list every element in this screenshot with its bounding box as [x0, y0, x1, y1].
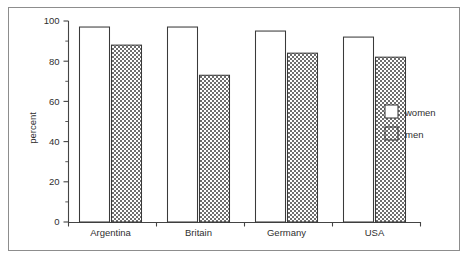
- legend-swatch-women: [385, 105, 398, 118]
- legend-label-men: men: [405, 129, 423, 140]
- bar-women-usa: [344, 37, 374, 222]
- y-tick-label: 40: [49, 136, 60, 147]
- y-tick-label: 0: [54, 216, 59, 227]
- y-tick-label: 20: [49, 176, 60, 187]
- legend-label-women: women: [404, 107, 436, 118]
- x-axis-category-labels: ArgentinaBritainGermanyUSA: [90, 227, 385, 238]
- bar-men-argentina: [112, 45, 142, 222]
- x-category-label: Argentina: [90, 227, 131, 238]
- bar-men-germany: [288, 53, 318, 222]
- y-tick-label: 60: [49, 96, 60, 107]
- x-category-label: USA: [365, 227, 385, 238]
- y-tick-label: 100: [44, 15, 60, 26]
- bar-women-germany: [256, 31, 286, 222]
- y-axis-title: percent: [27, 112, 38, 144]
- bar-men-britain: [200, 75, 230, 222]
- y-axis-tick-labels: 020406080100: [44, 15, 60, 227]
- y-axis-ticks: [64, 21, 69, 222]
- bars-group: [80, 27, 406, 222]
- bar-women-argentina: [80, 27, 110, 222]
- bar-chart: 020406080100 ArgentinaBritainGermanyUSA …: [0, 0, 470, 264]
- y-tick-label: 80: [49, 56, 60, 67]
- bar-women-britain: [168, 27, 198, 222]
- x-category-label: Britain: [185, 227, 212, 238]
- x-category-label: Germany: [267, 227, 306, 238]
- legend-swatch-men: [385, 127, 398, 140]
